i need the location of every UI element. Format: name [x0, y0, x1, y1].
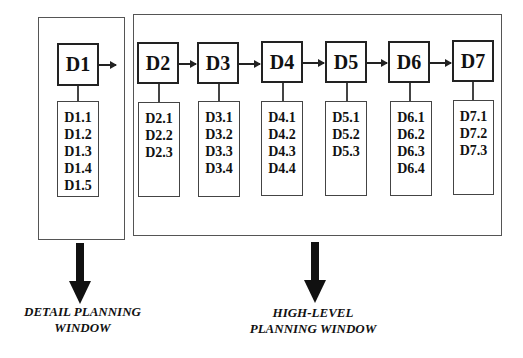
subitem: D6.1 — [391, 109, 431, 126]
subitems-d4: D4.1 D4.2 D4.3 D4.4 — [261, 101, 303, 196]
detail-planning-window-caption: DETAIL PLANNING WINDOW — [10, 304, 155, 336]
node-d4: D4 — [261, 41, 303, 83]
node-d2: D2 — [137, 42, 179, 84]
high-level-planning-window-caption: HIGH-LEVEL PLANNING WINDOW — [238, 305, 388, 337]
down-arrow-icon — [303, 242, 327, 304]
subitem: D4.3 — [262, 143, 302, 160]
subitem: D1.2 — [58, 126, 98, 143]
subitem: D4.1 — [262, 109, 302, 126]
caption-line: PLANNING WINDOW — [238, 321, 388, 337]
arrow-d4-to-d5 — [303, 62, 324, 64]
arrow-d5-to-d6 — [367, 62, 387, 64]
subitem: D1.5 — [58, 177, 98, 194]
subitem: D4.4 — [262, 160, 302, 177]
subitems-d7: D7.1 D7.2 D7.3 — [453, 100, 494, 195]
subitems-d2: D2.1 D2.2 D2.3 — [138, 102, 180, 197]
arrow-d1-to-d2 — [99, 64, 116, 66]
connector-d1 — [77, 86, 79, 101]
subitem: D3.2 — [199, 126, 239, 143]
arrow-d6-to-d7 — [430, 62, 451, 64]
node-d7: D7 — [452, 40, 494, 82]
subitems-d1: D1.1 D1.2 D1.3 D1.4 D1.5 — [57, 101, 99, 197]
subitem: D1.1 — [58, 109, 98, 126]
node-d1: D1 — [57, 43, 99, 86]
subitems-d6: D6.1 D6.2 D6.3 D6.4 — [390, 101, 432, 196]
connector-d2 — [158, 84, 160, 102]
node-d5: D5 — [325, 41, 367, 83]
subitem: D3.4 — [199, 160, 239, 177]
subitem: D5.3 — [326, 143, 366, 160]
high-level-planning-window-frame — [133, 14, 502, 236]
caption-line: HIGH-LEVEL — [238, 305, 388, 321]
node-d3: D3 — [197, 42, 239, 84]
subitem: D7.1 — [454, 108, 493, 125]
connector-d4 — [282, 83, 284, 101]
subitem: D2.3 — [139, 144, 179, 161]
connector-d3 — [218, 84, 220, 101]
connector-d7 — [472, 82, 474, 100]
subitem: D4.2 — [262, 126, 302, 143]
subitem: D7.2 — [454, 125, 493, 142]
subitem: D3.3 — [199, 143, 239, 160]
subitem: D6.2 — [391, 126, 431, 143]
connector-d5 — [346, 83, 348, 101]
subitem: D5.1 — [326, 109, 366, 126]
subitem: D2.1 — [139, 110, 179, 127]
connector-d6 — [409, 83, 411, 101]
subitem: D1.4 — [58, 160, 98, 177]
subitem: D7.3 — [454, 142, 493, 159]
subitem: D3.1 — [199, 109, 239, 126]
subitems-d5: D5.1 D5.2 D5.3 — [325, 101, 367, 196]
caption-line: WINDOW — [10, 320, 155, 336]
arrow-d3-to-d4 — [239, 63, 260, 65]
subitems-d3: D3.1 D3.2 D3.3 D3.4 — [198, 101, 240, 197]
subitem: D1.3 — [58, 143, 98, 160]
caption-line: DETAIL PLANNING — [10, 304, 155, 320]
subitem: D6.4 — [391, 160, 431, 177]
subitem: D2.2 — [139, 127, 179, 144]
node-d6: D6 — [388, 41, 430, 83]
subitem: D5.2 — [326, 126, 366, 143]
arrow-d2-to-d3 — [179, 63, 196, 65]
down-arrow-icon — [68, 243, 92, 305]
subitem: D6.3 — [391, 143, 431, 160]
